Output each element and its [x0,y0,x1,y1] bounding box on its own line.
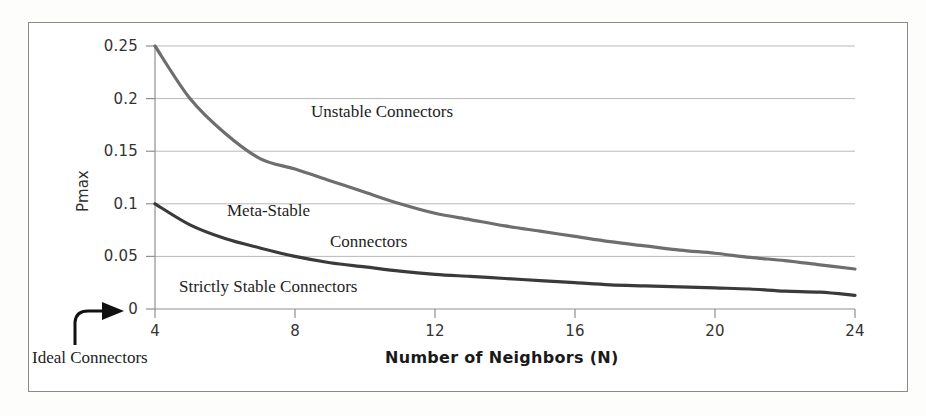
figure-chart: Pmax 0.25 0.2 0.15 0.1 0.05 0 4 8 12 16 … [0,0,926,416]
x-tick-label-20: 20 [695,322,735,340]
y-tick-label-0.2: 0.2 [78,90,138,108]
region-label-meta-stable: Meta-Stable [227,201,310,221]
x-tick-label-16: 16 [555,322,595,340]
y-tick-label-0: 0 [78,300,138,318]
y-tick-label-0.05: 0.05 [78,247,138,265]
x-tick-label-24: 24 [835,322,875,340]
x-tick-label-8: 8 [275,322,315,340]
x-axis-title: Number of Neighbors (N) [385,348,619,367]
y-tick-label-0.25: 0.25 [78,37,138,55]
callout-label-ideal-connectors: Ideal Connectors [32,348,148,368]
region-label-meta-stable-connectors: Connectors [330,232,407,252]
y-tick-label-0.1: 0.1 [78,195,138,213]
x-tick-label-12: 12 [415,322,455,340]
y-tick-label-0.15: 0.15 [78,142,138,160]
region-label-strictly-stable-connectors: Strictly Stable Connectors [179,277,357,297]
region-label-unstable-connectors: Unstable Connectors [311,102,453,122]
x-tick-label-4: 4 [135,322,175,340]
